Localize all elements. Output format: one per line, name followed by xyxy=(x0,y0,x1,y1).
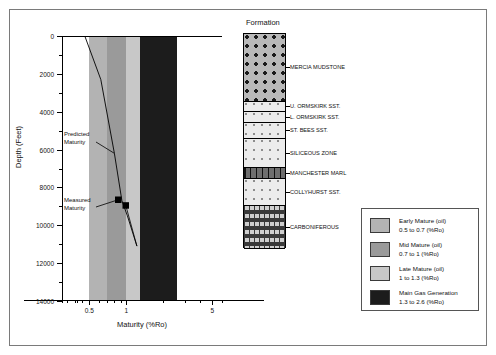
x-tick xyxy=(89,300,90,305)
y-tick-label: 6000 xyxy=(40,146,54,153)
x-axis-title: Maturity (%Ro) xyxy=(117,320,167,329)
formation-label: CARBONIFEROUS xyxy=(290,224,339,230)
formation-label-tick xyxy=(286,117,290,118)
formation-label: SILICEOUS ZONE xyxy=(290,150,337,156)
x-tick xyxy=(126,300,127,305)
x-tick xyxy=(185,300,186,303)
formation-label: U. ORMSKIRK SST. xyxy=(290,103,340,109)
x-tick xyxy=(107,300,108,303)
y-tick-label: 4000 xyxy=(40,108,54,115)
formation-label: MERCIA MUDSTONE xyxy=(290,64,345,70)
y-axis-title: Depth (Feet) xyxy=(14,126,23,168)
y-tick xyxy=(59,282,62,283)
formation-label-tick xyxy=(286,130,290,131)
formation-label: MANCHESTER MARL xyxy=(290,170,346,176)
y-tick xyxy=(59,55,62,56)
legend-item-1: Early Mature (oil)0.5 to 0.7 (%Ro) xyxy=(370,217,446,235)
x-tick xyxy=(99,300,100,303)
legend-item-label: Main Gas Generation xyxy=(399,289,458,298)
legend-swatch xyxy=(370,218,390,233)
x-tick xyxy=(62,300,63,303)
x-tick xyxy=(163,300,164,303)
legend-item-4: Main Gas Generation1.3 to 2.6 (%Ro) xyxy=(370,289,458,307)
legend-item-2: Mid Mature (oil)0.7 to 1 (%Ro) xyxy=(370,241,442,259)
strat-unit-5 xyxy=(244,139,285,168)
y-tick-label: 0 xyxy=(50,33,54,40)
formation-label-tick xyxy=(286,153,290,154)
legend-item-range: 1 to 1.3 (%Ro) xyxy=(399,274,444,283)
formation-label-tick xyxy=(286,106,290,107)
y-tick xyxy=(57,112,62,113)
legend-item-label: Early Mature (oil) xyxy=(399,217,446,226)
y-tick xyxy=(59,131,62,132)
strat-unit-divider xyxy=(244,248,285,249)
y-tick-label: 8000 xyxy=(40,184,54,191)
y-tick xyxy=(57,36,62,37)
y-tick-label: 12000 xyxy=(36,260,54,267)
strat-unit-1 xyxy=(244,34,285,102)
legend-item-label: Mid Mature (oil) xyxy=(399,241,442,250)
formation-column-title: Formation xyxy=(246,18,280,27)
x-tick xyxy=(82,300,83,303)
y-axis-line xyxy=(62,36,63,301)
x-tick xyxy=(114,300,115,303)
annotation-measured-line1: Measured xyxy=(64,197,91,205)
y-tick xyxy=(57,187,62,188)
annotation-measured-maturity: Measured Maturity xyxy=(64,197,91,212)
legend-item-label: Late Mature (oil) xyxy=(399,265,444,274)
legend-text: Early Mature (oil)0.5 to 0.7 (%Ro) xyxy=(399,217,446,235)
legend-item-range: 0.5 to 0.7 (%Ro) xyxy=(399,226,446,235)
x-tick xyxy=(75,300,76,303)
x-tick xyxy=(212,300,213,305)
y-tick xyxy=(59,169,62,170)
legend-swatch xyxy=(370,290,390,305)
formation-label: COLLYHURST SST. xyxy=(290,189,340,195)
strat-unit-8 xyxy=(244,206,285,249)
maturity-curves xyxy=(62,36,222,301)
x-tick-label: 0.5 xyxy=(85,307,94,314)
formation-label-tick xyxy=(286,227,290,228)
measured-maturity-marker xyxy=(123,202,130,209)
measured-maturity-marker xyxy=(115,197,122,204)
formation-label: ST. BEES SST. xyxy=(290,127,328,133)
legend-text: Main Gas Generation1.3 to 2.6 (%Ro) xyxy=(399,289,458,307)
x-tick-label: 1 xyxy=(124,307,128,314)
y-tick-label: 14000 xyxy=(36,298,54,305)
strat-unit-4 xyxy=(244,123,285,139)
y-tick xyxy=(59,206,62,207)
strat-unit-7 xyxy=(244,179,285,206)
legend-item-range: 0.7 to 1 (%Ro) xyxy=(399,250,442,259)
maturity-legend: Early Mature (oil)0.5 to 0.7 (%Ro)Mid Ma… xyxy=(361,208,479,311)
y-tick-label: 10000 xyxy=(36,222,54,229)
annotation-predicted-line2: Maturity xyxy=(64,139,89,147)
stratigraphic-column xyxy=(243,33,286,248)
x-tick xyxy=(222,300,223,303)
x-tick xyxy=(200,300,201,303)
legend-item-3: Late Mature (oil)1 to 1.3 (%Ro) xyxy=(370,265,444,283)
maturity-depth-plot xyxy=(62,36,222,301)
y-tick xyxy=(57,150,62,151)
legend-swatch xyxy=(370,266,390,281)
annotation-predicted-line1: Predicted xyxy=(64,131,89,139)
y-tick-label: 2000 xyxy=(40,70,54,77)
y-tick xyxy=(59,93,62,94)
predicted-maturity-curve xyxy=(85,36,137,246)
figure-canvas: 02000400060008000100001200014000 0.515 D… xyxy=(0,0,496,355)
legend-item-range: 1.3 to 2.6 (%Ro) xyxy=(399,298,458,307)
strat-unit-2 xyxy=(244,102,285,113)
legend-text: Mid Mature (oil)0.7 to 1 (%Ro) xyxy=(399,241,442,259)
strat-unit-6 xyxy=(244,168,285,179)
legend-text: Late Mature (oil)1 to 1.3 (%Ro) xyxy=(399,265,444,283)
y-tick xyxy=(59,244,62,245)
strat-unit-3 xyxy=(244,112,285,123)
x-tick xyxy=(77,300,78,303)
y-tick xyxy=(57,263,62,264)
y-tick xyxy=(57,74,62,75)
formation-label-tick xyxy=(286,67,290,68)
legend-swatch xyxy=(370,242,390,257)
x-tick xyxy=(121,300,122,303)
formation-label: L. ORMSKIRK SST. xyxy=(290,114,339,120)
x-tick xyxy=(67,300,68,303)
x-tick-label: 5 xyxy=(210,307,214,314)
formation-label-tick xyxy=(286,173,290,174)
